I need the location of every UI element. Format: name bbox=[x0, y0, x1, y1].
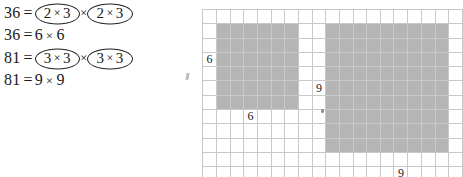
equation-36-equals-sign: = bbox=[23, 24, 32, 46]
factor-a: 3 bbox=[44, 50, 52, 66]
grid-cell-empty bbox=[422, 167, 436, 177]
grid-cell-empty bbox=[203, 10, 217, 24]
grid-cell-empty bbox=[203, 138, 217, 152]
factor-b: 3 bbox=[63, 5, 71, 21]
grid-cell-shaded bbox=[326, 52, 340, 66]
grid-cell-empty bbox=[340, 167, 354, 177]
grid-cell-empty bbox=[394, 152, 408, 166]
multiply-icon: × bbox=[46, 28, 54, 43]
grid-cell-empty bbox=[203, 24, 217, 38]
grid-cell-shaded bbox=[285, 81, 299, 95]
grid-cell-empty bbox=[298, 52, 312, 66]
grid-cell-empty bbox=[367, 167, 381, 177]
grid-cell-shaded bbox=[340, 67, 354, 81]
grid-cell-empty bbox=[258, 167, 272, 177]
grid-cell-empty bbox=[298, 152, 312, 166]
grid-cell-empty bbox=[258, 10, 272, 24]
grid-cell-shaded bbox=[435, 67, 449, 81]
grid-cell-shaded bbox=[258, 81, 272, 95]
grid-cell-empty bbox=[326, 167, 340, 177]
grid-cell-empty bbox=[312, 38, 326, 52]
grid-cell-shaded bbox=[435, 95, 449, 109]
grid-cell-shaded bbox=[408, 24, 422, 38]
grid-cell-empty bbox=[230, 10, 244, 24]
grid-cell-empty bbox=[203, 152, 217, 166]
grid-cell-shaded bbox=[285, 24, 299, 38]
grid-cell-empty bbox=[367, 10, 381, 24]
grid-cell-shaded bbox=[326, 95, 340, 109]
grid-cell-shaded bbox=[326, 24, 340, 38]
grid-cell-shaded bbox=[271, 24, 285, 38]
grid-cell-empty bbox=[258, 124, 272, 138]
grid-cell-empty bbox=[216, 167, 230, 177]
grid-cell-shaded bbox=[216, 67, 230, 81]
grid-row: 9 bbox=[203, 81, 463, 95]
equation-group-36: 36=2×3×2×3 36=6×6 bbox=[4, 2, 133, 46]
grid-cell-empty bbox=[298, 38, 312, 52]
grid-cell-shaded bbox=[408, 81, 422, 95]
equation-group-81: 81=3×3×3×3 81=9×9 bbox=[4, 47, 133, 91]
grid-cell-empty bbox=[298, 10, 312, 24]
grid-cell-empty bbox=[203, 95, 217, 109]
math-worked-examples-panel: 36=2×3×2×3 36=6×6 81=3×3×3×3 81=9×9 bbox=[0, 0, 195, 177]
grid-cell-empty bbox=[435, 10, 449, 24]
multiply-icon: × bbox=[106, 6, 113, 20]
equation-81-equals-sign: = bbox=[23, 47, 32, 69]
grid-cell-shaded bbox=[367, 24, 381, 38]
grid-cell-shaded bbox=[435, 38, 449, 52]
grid-cell-empty bbox=[312, 24, 326, 38]
grid-cell-shaded bbox=[367, 138, 381, 152]
grid-cell-shaded bbox=[367, 95, 381, 109]
grid-cell-empty bbox=[230, 152, 244, 166]
grid-cell-shaded bbox=[367, 52, 381, 66]
grid-row: 6 bbox=[203, 110, 463, 124]
multiply-icon: × bbox=[106, 51, 113, 65]
grid-cell-shaded bbox=[258, 95, 272, 109]
grid-cell-empty bbox=[203, 67, 217, 81]
grid-cell-empty bbox=[408, 10, 422, 24]
grid-cell-empty bbox=[326, 10, 340, 24]
grid-cell-empty bbox=[312, 124, 326, 138]
grid-cell-empty bbox=[285, 152, 299, 166]
grid-cell-shaded bbox=[271, 95, 285, 109]
grid-cell-shaded bbox=[435, 110, 449, 124]
grid-cell-shaded bbox=[435, 124, 449, 138]
grid-cell-empty bbox=[408, 167, 422, 177]
grid-row bbox=[203, 67, 463, 81]
equation-36-product-line: 36=6×6 bbox=[4, 24, 133, 46]
grid-cell-shaded bbox=[380, 110, 394, 124]
grid-cell-shaded bbox=[258, 38, 272, 52]
grid-cell-shaded bbox=[326, 124, 340, 138]
equation-36-equals-sign: = bbox=[23, 2, 32, 24]
grid-cell-empty bbox=[449, 152, 463, 166]
grid-cell-empty bbox=[380, 152, 394, 166]
grid-diagram-panel: 6969 bbox=[195, 0, 463, 177]
grid-cell-empty bbox=[312, 95, 326, 109]
equation-36-factored-line: 36=2×3×2×3 bbox=[4, 2, 133, 24]
multiply-icon: × bbox=[46, 73, 54, 88]
grid-cell-shaded bbox=[230, 52, 244, 66]
grid-cell-empty bbox=[271, 10, 285, 24]
grid-cell-empty bbox=[298, 138, 312, 152]
factor-b: 3 bbox=[116, 50, 124, 66]
grid-row bbox=[203, 124, 463, 138]
grid-cell-empty bbox=[258, 110, 272, 124]
grid-cell-shaded bbox=[394, 124, 408, 138]
grid-cell-shaded bbox=[244, 67, 258, 81]
grid-row bbox=[203, 38, 463, 52]
grid-cell-shaded bbox=[258, 52, 272, 66]
equation-36-left-number: 36 bbox=[4, 2, 20, 24]
grid-cell-empty bbox=[285, 10, 299, 24]
circled-factor-pair-right-81-text: 3×3 bbox=[96, 50, 123, 66]
grid-cell-empty bbox=[312, 167, 326, 177]
grid-cell-empty bbox=[298, 110, 312, 124]
grid-cell-empty bbox=[449, 24, 463, 38]
grid-cell-shaded bbox=[422, 67, 436, 81]
grid-cell-shaded bbox=[271, 67, 285, 81]
grid-cell-shaded bbox=[353, 138, 367, 152]
factor-b: 3 bbox=[63, 50, 71, 66]
grid-cell-shaded bbox=[353, 81, 367, 95]
grid-cell-shaded bbox=[216, 24, 230, 38]
grid-cell-shaded bbox=[340, 95, 354, 109]
grid-cell-shaded bbox=[435, 138, 449, 152]
